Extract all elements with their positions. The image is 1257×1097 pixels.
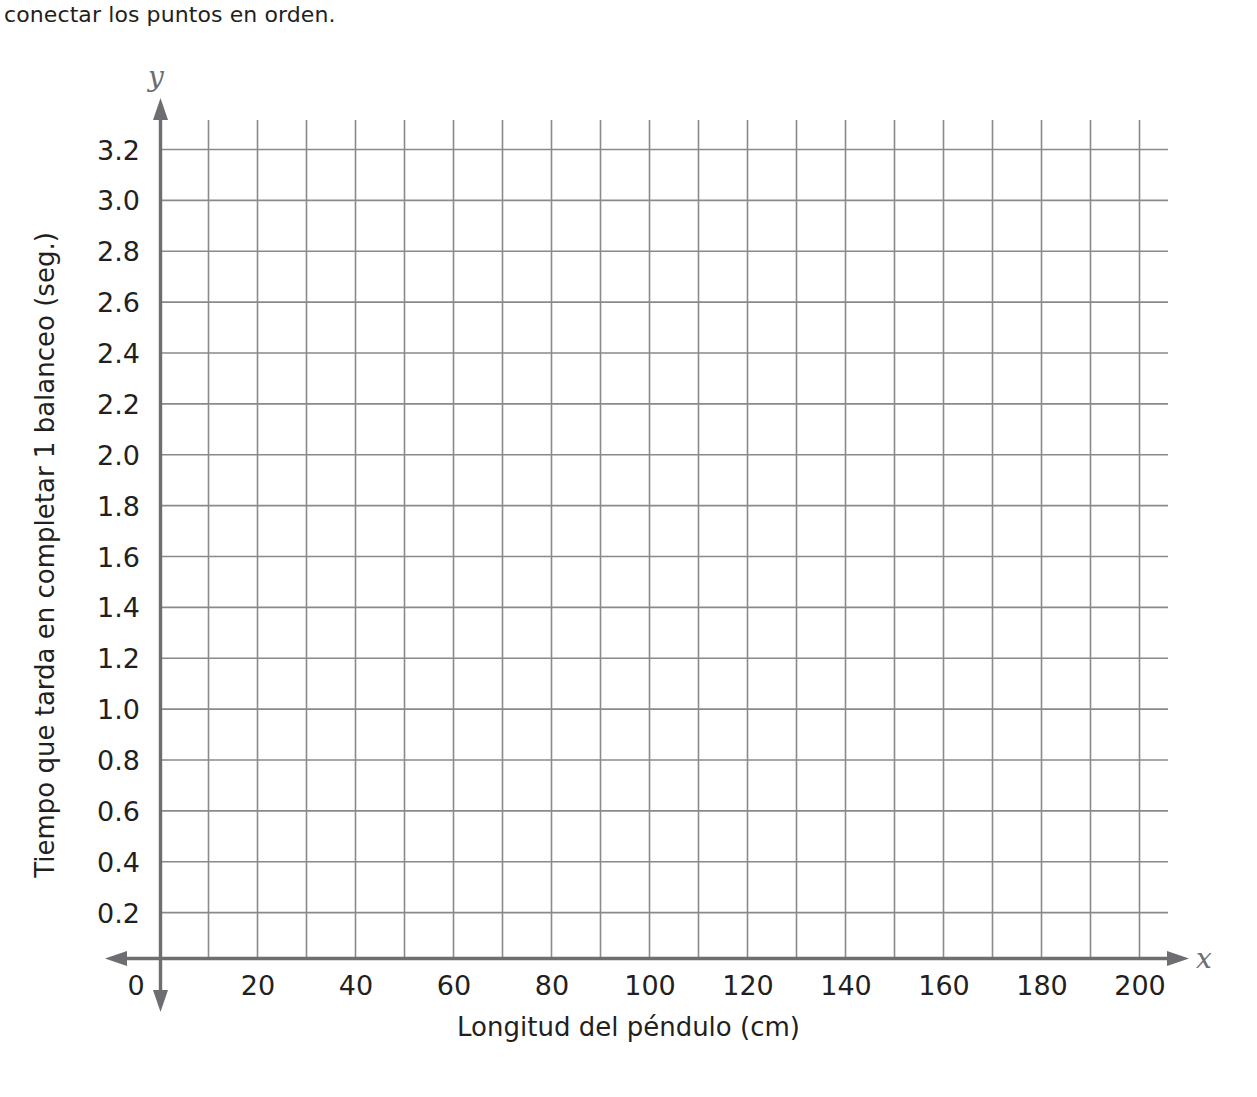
x-tick-label-60: 60 xyxy=(437,972,471,999)
y-axis-title: Tiempo que tarda en completar 1 balanceo… xyxy=(30,155,60,955)
vertical-gridlines xyxy=(209,120,1140,958)
y-axis-letter: y xyxy=(148,60,164,93)
x-tick-label-80: 80 xyxy=(535,972,569,999)
x-axis-letter: x xyxy=(1196,942,1212,975)
x-tick-label-180: 180 xyxy=(1016,972,1068,999)
y-axis-title-container: Tiempo que tarda en completar 1 balanceo… xyxy=(0,0,90,1000)
graph-canvas xyxy=(0,0,1257,1097)
axis-lines xyxy=(105,98,1189,1012)
x-tick-label-100: 100 xyxy=(624,972,676,999)
x-tick-label-140: 140 xyxy=(820,972,872,999)
x-axis-title: Longitud del péndulo (cm) xyxy=(0,1012,1257,1042)
pendulum-graph-figure: y x 3.2 3.0 2.8 2.6 2.4 2.2 2.0 1.8 1.6 … xyxy=(0,0,1257,1097)
horizontal-gridlines xyxy=(160,150,1168,913)
x-tick-label-0: 0 xyxy=(127,972,144,999)
x-tick-label-160: 160 xyxy=(918,972,970,999)
x-tick-label-40: 40 xyxy=(339,972,373,999)
x-tick-label-20: 20 xyxy=(241,972,275,999)
x-tick-label-200: 200 xyxy=(1114,972,1166,999)
x-tick-label-120: 120 xyxy=(722,972,774,999)
